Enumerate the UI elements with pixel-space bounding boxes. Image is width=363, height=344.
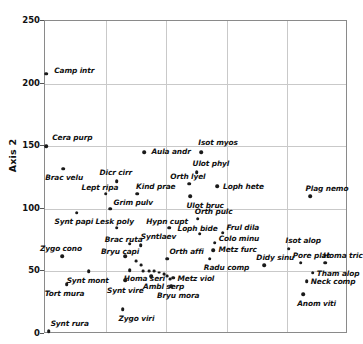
data-point	[166, 257, 170, 261]
data-point-label: Dicr cirr	[100, 168, 133, 177]
data-point-label: Ulot phyl	[193, 159, 230, 168]
data-point	[44, 72, 48, 76]
data-point-label: Isot myos	[198, 138, 237, 147]
data-point	[47, 330, 51, 334]
data-point	[287, 247, 291, 251]
data-point-label: Loph hete	[223, 182, 264, 191]
data-point	[167, 226, 171, 230]
y-tick-label: 150	[0, 140, 40, 150]
gridline-horizontal	[45, 84, 346, 85]
data-point	[263, 263, 267, 267]
gridline-vertical	[227, 21, 228, 332]
data-point-label: Synt rura	[51, 319, 89, 328]
y-tick-label: 250	[0, 15, 40, 25]
data-point	[309, 194, 313, 198]
data-point-label: Cera purp	[52, 133, 92, 142]
data-point-label: Neck comp	[311, 277, 356, 286]
data-point	[139, 264, 142, 267]
data-point-label: Tort mura	[45, 289, 85, 298]
data-point-label: Metz viol	[177, 274, 214, 283]
data-point-label: Tham alop	[317, 269, 360, 278]
data-point-label: Syntlaev	[141, 232, 177, 241]
data-point	[123, 278, 127, 282]
data-point-label: Kind prae	[136, 182, 175, 191]
data-point-label: Radu comp	[204, 263, 249, 272]
data-point	[148, 270, 151, 273]
data-point	[200, 151, 204, 155]
data-point	[208, 257, 212, 261]
data-point-label: Camp intr	[54, 66, 94, 75]
data-point-label: Plag nemo	[305, 184, 348, 193]
data-point	[143, 151, 147, 155]
data-point-label: Loph bide	[178, 224, 218, 233]
data-point-label: Brac ruta	[105, 235, 143, 244]
data-point-label: Zygo cono	[40, 244, 82, 253]
data-point	[158, 271, 161, 274]
data-point-label: Lesk poly	[96, 217, 134, 226]
data-point-label: Brac velu	[45, 173, 83, 182]
data-point	[305, 280, 309, 284]
data-point	[169, 285, 173, 289]
gridline-horizontal	[45, 146, 346, 147]
data-point-label: Frul dila	[227, 223, 260, 232]
data-point	[168, 278, 171, 281]
data-point	[153, 270, 156, 273]
data-point	[139, 243, 143, 247]
data-point-label: Synt mont	[67, 276, 109, 285]
plot-area: Camp intrCera purpBrac veluAula andrIsot…	[44, 20, 347, 333]
data-point-label: Bryu mora	[157, 291, 199, 300]
data-point	[187, 182, 191, 186]
data-point	[301, 292, 305, 296]
data-point-label: Synt papi	[55, 217, 94, 226]
data-point	[75, 211, 79, 215]
data-point	[44, 144, 48, 148]
y-tick-label: 200	[0, 78, 40, 88]
data-point	[142, 270, 145, 273]
data-point-label: Orth lyel	[170, 172, 205, 181]
data-point	[87, 270, 91, 274]
data-point-label: Bryu capi	[101, 247, 139, 256]
data-point-label: Lept ripa	[82, 183, 119, 192]
data-point-label: Colo minu	[219, 234, 260, 243]
data-point	[149, 275, 153, 279]
data-point-label: Homa tric	[323, 251, 363, 260]
data-point-label: Synt vire	[107, 286, 144, 295]
data-point	[65, 282, 69, 286]
data-point	[61, 167, 65, 171]
data-point	[215, 184, 219, 188]
data-point	[128, 268, 132, 272]
data-point	[60, 255, 64, 259]
data-point	[196, 217, 200, 221]
data-point-label: Didy sinu	[256, 253, 294, 262]
data-point-label: Metz furc	[218, 245, 256, 254]
data-point	[135, 192, 139, 196]
data-point	[189, 194, 193, 198]
data-point	[172, 276, 176, 280]
y-tick-label: 100	[0, 203, 40, 213]
data-point-label: Grim pulv	[113, 198, 153, 207]
data-point	[323, 261, 327, 265]
data-point-label: Ambl serp	[143, 282, 184, 291]
y-tick-label: 50	[0, 265, 40, 275]
data-point-label: Anom viti	[297, 299, 336, 308]
data-point	[299, 261, 303, 265]
data-point	[212, 248, 216, 252]
data-point-label: Isot alop	[286, 236, 321, 245]
data-point-label: Orth affi	[169, 247, 203, 256]
data-point	[121, 307, 125, 311]
y-tick-label: 0	[0, 328, 40, 338]
y-axis-title: Axis 2	[7, 126, 18, 186]
data-point	[134, 260, 137, 263]
data-point-label: Zygo viri	[119, 314, 155, 323]
data-point	[213, 241, 217, 245]
gridline-vertical	[287, 21, 288, 332]
data-point	[311, 271, 315, 275]
y-tick-mark	[40, 333, 44, 334]
data-point	[115, 226, 119, 230]
data-point	[109, 207, 113, 211]
data-point-label: Orth pulc	[195, 207, 233, 216]
data-point-label: Aula andr	[151, 147, 190, 156]
data-point	[104, 192, 108, 196]
data-point	[162, 272, 165, 275]
